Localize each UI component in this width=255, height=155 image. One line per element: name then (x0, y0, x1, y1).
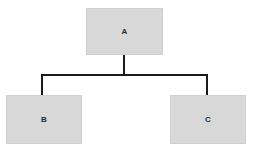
node-c[interactable]: C (170, 95, 246, 144)
node-b[interactable]: B (6, 95, 82, 144)
node-c-label: C (205, 116, 211, 124)
node-a-label: A (122, 28, 128, 36)
node-a[interactable]: A (86, 8, 163, 55)
node-b-label: B (41, 116, 47, 124)
tree-diagram: A B C (0, 0, 255, 155)
